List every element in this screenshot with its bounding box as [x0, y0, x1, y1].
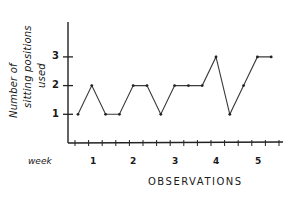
data-point	[187, 84, 190, 87]
data-point	[228, 113, 231, 116]
data-point	[270, 56, 273, 59]
x-group-label: week	[28, 156, 52, 166]
data-point	[173, 84, 176, 87]
y-axis-label-line-3: used	[36, 63, 47, 88]
data-point	[90, 84, 93, 87]
y-tick-label-1: 1	[52, 108, 59, 119]
data-point	[77, 113, 80, 116]
week-tick-2: 2	[130, 156, 136, 166]
data-point	[256, 56, 259, 59]
data-series	[77, 56, 273, 116]
x-axis-label: OBSERVATIONS	[148, 176, 243, 187]
data-point	[242, 84, 245, 87]
data-point	[146, 84, 149, 87]
week-tick-1: 1	[90, 156, 96, 166]
x-axis-line	[68, 142, 283, 143]
axes	[63, 22, 283, 146]
y-axis-label-line-1: Number of	[8, 63, 19, 118]
data-point	[159, 113, 162, 116]
data-point	[132, 84, 135, 87]
data-point	[215, 56, 218, 59]
y-tick-label-2: 2	[52, 79, 59, 90]
data-point	[201, 84, 204, 87]
week-tick-4: 4	[213, 156, 219, 166]
week-tick-5: 5	[255, 156, 261, 166]
y-axis-label-line-2: sitting positions	[22, 25, 33, 108]
y-tick-label-3: 3	[52, 50, 59, 61]
week-tick-3: 3	[172, 156, 178, 166]
data-point	[104, 113, 107, 116]
data-point	[118, 113, 121, 116]
